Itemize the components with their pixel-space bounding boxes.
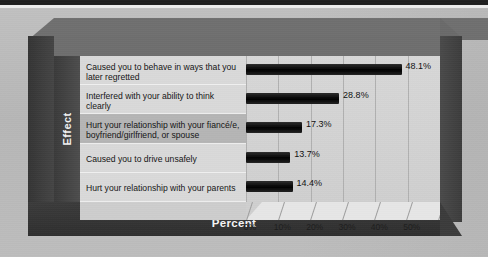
floor-depth-line [404, 202, 413, 220]
x-tick-label: 40% [371, 222, 388, 232]
bar-row: 13.7% [246, 144, 440, 173]
category-label-row: Caused you to behave in ways that you la… [80, 56, 246, 85]
floor-depth-line [276, 202, 285, 220]
bar [246, 181, 293, 192]
frame-corner-bevel [440, 18, 462, 38]
bar-value-label: 48.1% [406, 61, 432, 71]
x-tick-label: 50% [403, 222, 420, 232]
floor-depth-line [436, 202, 440, 220]
x-tick-label: 30% [338, 222, 355, 232]
y-axis-title: Effect [54, 56, 80, 202]
floor-depth-line [372, 202, 381, 220]
category-label-row: Hurt your relationship with your fiancé/… [80, 114, 246, 143]
category-label-row: Hurt your relationship with your parents [80, 173, 246, 202]
bar-value-label: 13.7% [294, 149, 320, 159]
bar-value-label: 14.4% [297, 178, 323, 188]
category-label-row: Caused you to drive unsafely [80, 144, 246, 173]
category-label-panel: Caused you to behave in ways that you la… [80, 56, 246, 202]
bar-row: 28.8% [246, 85, 440, 114]
chart-frame: Percent Effect Caused you to behave in w… [28, 18, 462, 236]
x-tick-label: 20% [306, 222, 323, 232]
category-label-row: Interfered with your ability to think cl… [80, 85, 246, 114]
floor-depth-line [340, 202, 349, 220]
bar-row: 14.4% [246, 173, 440, 202]
x-tick-label: 10% [274, 222, 291, 232]
plot-floor [246, 202, 440, 220]
chart-screenshot: Percent Effect Caused you to behave in w… [0, 0, 488, 257]
bar [246, 93, 339, 104]
frame-right-face [440, 36, 462, 222]
floor-depth-line [308, 202, 317, 220]
y-axis-title-text: Effect [61, 113, 73, 146]
bar [246, 122, 302, 133]
plot-top-deck [54, 36, 440, 56]
bar-value-label: 17.3% [306, 119, 332, 129]
bar-row: 48.1% [246, 56, 440, 85]
panel-floor [80, 202, 246, 220]
bar [246, 152, 290, 163]
plot-area: Effect Caused you to behave in ways that… [54, 36, 440, 202]
bar [246, 64, 402, 75]
plot-top-deck-slope [54, 36, 74, 56]
x-axis-ticks: 0%10%20%30%40%50% [246, 222, 456, 236]
bar-row: 17.3% [246, 114, 440, 143]
bar-value-label: 28.8% [343, 90, 369, 100]
bars-plot-region: 48.1%28.8%17.3%13.7%14.4% [246, 56, 440, 202]
x-tick-label: 0% [244, 222, 256, 232]
